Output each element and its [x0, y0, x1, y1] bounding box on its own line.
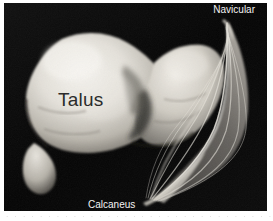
anatomy-figure: Navicular Calcaneus Talus	[4, 3, 267, 211]
caption-ghost-line: · · · · · · · · · · · · · · · · · · · · …	[0, 213, 273, 221]
figure-page: Navicular Calcaneus Talus · · · · · · · …	[0, 0, 273, 221]
anatomy-illustration	[4, 3, 267, 211]
